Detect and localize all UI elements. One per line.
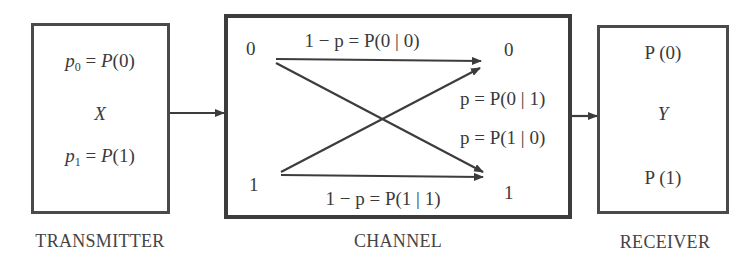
label-p-0-given-0: 1 − p = P(0 | 0) <box>305 31 420 50</box>
channel-input-1: 1 <box>249 175 259 194</box>
transmitter-p0: p0 = P(0) <box>65 51 134 73</box>
label-p-1-given-0: p = P(1 | 0) <box>460 128 545 147</box>
label-p-0-given-1: p = P(0 | 1) <box>460 89 545 108</box>
receiver-p0: P (0) <box>645 43 682 62</box>
channel-caption: CHANNEL <box>354 231 442 252</box>
arrow-0-to-1 <box>276 63 483 172</box>
receiver-caption: RECEIVER <box>620 232 710 253</box>
arrow-1-to-1 <box>281 175 483 177</box>
receiver-symbol: Y <box>658 104 669 123</box>
transmitter-p1: p1 = P(1) <box>65 146 134 168</box>
receiver-p1: P (1) <box>645 168 682 187</box>
channel-output-1: 1 <box>504 183 514 202</box>
transmitter-symbol: X <box>94 104 106 123</box>
channel-input-0: 0 <box>246 39 256 58</box>
arrow-0-to-0 <box>276 59 481 61</box>
channel-output-0: 0 <box>504 40 514 59</box>
arrow-1-to-0 <box>281 68 480 172</box>
transmitter-caption: TRANSMITTER <box>35 231 164 252</box>
label-p-1-given-1: 1 − p = P(1 | 1) <box>326 189 441 208</box>
